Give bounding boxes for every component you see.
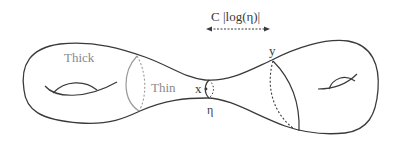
distance-label: C |log(η)| — [211, 10, 260, 23]
right-collar-front — [273, 61, 299, 131]
surface-bottom-contour — [24, 90, 345, 134]
thick-label: Thick — [64, 51, 94, 64]
neck-collar-back — [209, 80, 214, 98]
point-y-label: y — [269, 44, 276, 57]
thick-thin-boundary-front — [126, 56, 139, 111]
thin-label: Thin — [151, 81, 176, 94]
surface-drawing — [0, 0, 395, 141]
right-hole-lower-curve — [318, 74, 357, 89]
left-hole-lower-curve — [45, 82, 117, 95]
distance-arrow-left-head — [206, 27, 212, 32]
thick-thin-boundary-back — [137, 56, 145, 111]
eta-label: η — [207, 104, 213, 116]
point-x-label: x — [195, 82, 202, 95]
point-x-marker — [205, 88, 208, 91]
distance-arrow-right-head — [264, 27, 270, 32]
left-hole-upper-curve — [53, 83, 97, 93]
diagram-canvas: Thick Thin x η y C |log(η)| — [0, 0, 395, 141]
